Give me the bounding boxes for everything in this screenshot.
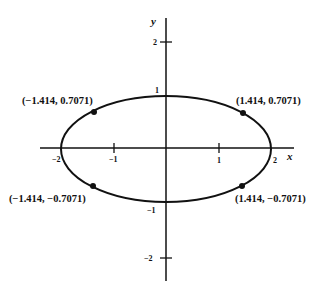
x-tick-label-neg2: −2 bbox=[52, 155, 61, 164]
point-lower-right bbox=[239, 183, 245, 189]
x-tick-label-neg1: −1 bbox=[109, 155, 118, 164]
x-tick-label-2: 2 bbox=[273, 156, 277, 165]
y-axis-label: y bbox=[149, 15, 156, 27]
point-upper-left bbox=[91, 109, 97, 115]
point-label-lower-left: (−1.414, −0.7071) bbox=[9, 193, 86, 205]
point-label-upper-left: (−1.414, 0.7071) bbox=[22, 95, 93, 107]
point-label-lower-right: (1.414, −0.7071) bbox=[235, 193, 306, 205]
point-upper-right bbox=[240, 110, 246, 116]
y-tick-label-neg1: −1 bbox=[147, 206, 156, 215]
x-tick-label-1: 1 bbox=[217, 156, 221, 165]
x-axis-label: x bbox=[286, 150, 293, 162]
point-label-upper-right: (1.414, 0.7071) bbox=[236, 95, 301, 107]
y-tick-label-neg2: −2 bbox=[144, 254, 153, 263]
y-tick-label-1: 1 bbox=[155, 86, 159, 95]
point-lower-left bbox=[90, 183, 96, 189]
y-tick-label-2: 2 bbox=[153, 38, 157, 47]
ellipse-diagram: y x −2 −1 1 2 2 1 −1 −2 (−1.414, 0.7071)… bbox=[0, 0, 314, 297]
